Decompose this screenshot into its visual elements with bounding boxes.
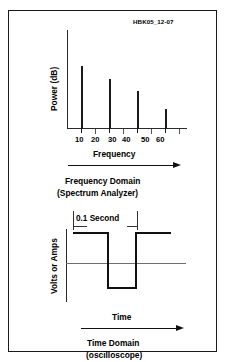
- waveform-x-axis-label: Time: [112, 313, 131, 321]
- spectrum-x-tick-minor: [95, 129, 96, 134]
- spectrum-y-axis: [67, 30, 68, 129]
- spectrum-tick-label-40: 40: [122, 136, 130, 144]
- waveform-high-segment: [135, 232, 171, 234]
- frequency-domain-caption-subtitle: (Spectrum Analyzer): [57, 189, 138, 197]
- spectrum-x-tick-minor: [179, 129, 180, 134]
- waveform-rising-edge: [135, 232, 137, 289]
- spectrum-spike: [109, 79, 111, 129]
- spectrum-tick-label-20: 20: [91, 136, 99, 144]
- spectrum-x-tick-major: [109, 124, 110, 133]
- spectrum-x-tick-minor: [123, 129, 124, 134]
- spectrum-tick-label-10: 10: [75, 136, 83, 144]
- spectrum-spike: [81, 66, 83, 129]
- spectrum-x-tick-major: [165, 124, 166, 133]
- frequency-domain-caption-title: Frequency Domain: [65, 177, 140, 185]
- spectrum-x-tick-major: [81, 124, 82, 133]
- time-domain-caption-title: Time Domain: [87, 339, 139, 347]
- spectrum-tick-label-50: 50: [141, 136, 149, 144]
- spectrum-x-axis: [67, 128, 187, 129]
- time-arrow-line: [81, 328, 179, 329]
- waveform-falling-edge: [107, 232, 109, 289]
- figure-code-label: HBK05_12-07: [133, 19, 174, 25]
- spectrum-x-tick-major: [137, 124, 138, 133]
- waveform-y-axis-label: Volts or Amps: [49, 238, 59, 294]
- time-domain-caption-subtitle: (oscilloscope): [86, 351, 142, 359]
- figure-root: HBK05_12-07 Power (dB) 10 20: [0, 0, 227, 362]
- spectrum-y-axis-label: Power (dB): [49, 67, 59, 111]
- figure-border: HBK05_12-07 Power (dB) 10 20: [8, 10, 217, 352]
- time-arrow-head-icon: [176, 325, 184, 331]
- dimension-line-left: [73, 226, 87, 227]
- waveform-high-segment: [73, 232, 109, 234]
- dimension-label: 0.1 Second: [76, 215, 119, 223]
- frequency-arrow-line: [68, 165, 176, 166]
- spectrum-x-axis-label: Frequency: [93, 150, 135, 158]
- spectrum-x-tick-minor: [151, 129, 152, 134]
- frequency-arrow-head-icon: [173, 162, 181, 168]
- dimension-line-right: [127, 226, 138, 227]
- dimension-tick-left: [73, 211, 74, 230]
- waveform-low-segment: [107, 287, 137, 289]
- spectrum-tick-label-60: 60: [156, 136, 164, 144]
- waveform-y-axis: [66, 229, 67, 302]
- dimension-tick-right: [137, 211, 138, 230]
- spectrum-tick-label-30: 30: [108, 136, 116, 144]
- waveform-midline: [66, 263, 186, 264]
